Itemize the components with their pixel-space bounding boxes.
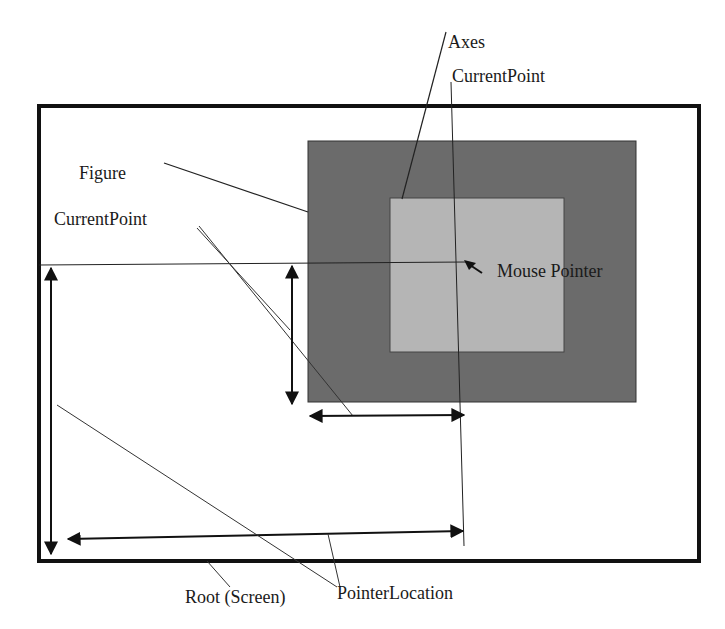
mouse-pointer-label: Mouse Pointer xyxy=(497,262,603,280)
pointerlocation-label: PointerLocation xyxy=(337,584,453,602)
figure-currentpoint-horizontal-arrow xyxy=(310,415,464,416)
axes-label: Axes xyxy=(448,33,485,51)
diagram-canvas xyxy=(0,0,725,629)
figure-label: Figure xyxy=(79,164,126,182)
figure-currentpoint-label: CurrentPoint xyxy=(54,210,147,228)
root-screen-label: Root (Screen) xyxy=(185,588,285,606)
root-callout-line xyxy=(207,561,230,587)
axes-currentpoint-label: CurrentPoint xyxy=(452,67,545,85)
